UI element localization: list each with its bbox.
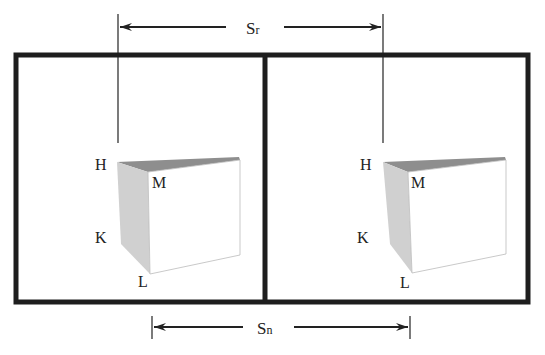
right-panel-cube: H M K L: [357, 156, 506, 291]
sr-label: Sr: [246, 19, 259, 38]
label-h: H: [95, 156, 107, 173]
sn-label: Sn: [257, 319, 272, 338]
diagram-canvas: Sr H M K L H M K L Sn: [0, 0, 545, 355]
label-m: M: [152, 174, 166, 191]
label-k: K: [95, 229, 107, 246]
left-panel-cube: H M K L: [95, 156, 240, 290]
label-l: L: [400, 274, 410, 291]
cube-side-face: [383, 162, 412, 273]
label-k: K: [357, 229, 369, 246]
top-dimension-sr: Sr: [118, 14, 383, 143]
label-m: M: [411, 174, 425, 191]
cube-side-face: [117, 162, 150, 274]
stereo-cube-diagram: Sr H M K L H M K L Sn: [0, 0, 545, 355]
label-h: H: [360, 156, 372, 173]
label-l: L: [138, 273, 148, 290]
bottom-dimension-sn: Sn: [152, 316, 410, 339]
